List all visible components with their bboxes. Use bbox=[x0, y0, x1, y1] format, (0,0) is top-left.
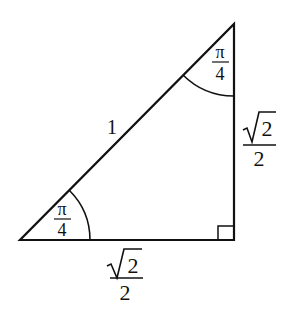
angle-label-top: π 4 bbox=[212, 42, 229, 84]
angle-arc-bottom-left bbox=[70, 191, 91, 241]
denominator: 2 bbox=[254, 146, 265, 171]
angle-denominator: 4 bbox=[58, 220, 67, 240]
hypotenuse-label: 1 bbox=[107, 116, 117, 138]
base-label: 2 2 bbox=[107, 249, 143, 305]
radicand: 2 bbox=[262, 116, 273, 141]
denominator: 2 bbox=[120, 280, 131, 305]
vertical-side-label: 2 2 bbox=[243, 112, 276, 171]
triangle-diagram: 1 π 4 π 4 2 2 2 2 bbox=[0, 0, 292, 313]
angle-numerator: π bbox=[57, 199, 66, 219]
right-angle-marker bbox=[218, 226, 234, 240]
triangle bbox=[20, 24, 234, 240]
angle-arc-top bbox=[183, 75, 234, 96]
radicand: 2 bbox=[128, 253, 139, 278]
angle-label-bottom-left: π 4 bbox=[54, 199, 71, 240]
angle-denominator: 4 bbox=[216, 64, 225, 84]
angle-numerator: π bbox=[215, 42, 224, 62]
